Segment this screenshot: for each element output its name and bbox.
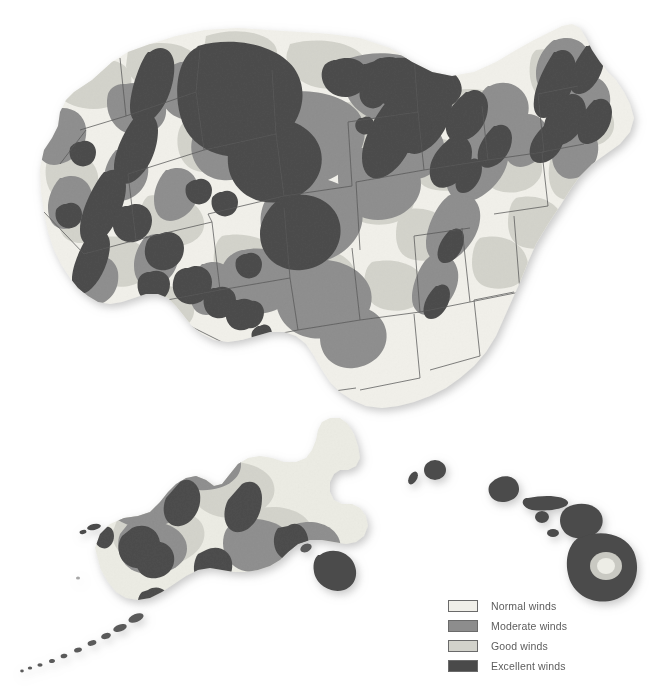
map-canvas xyxy=(0,0,662,700)
legend-label-good: Good winds xyxy=(491,640,548,652)
legend-item-excellent: Excellent winds xyxy=(448,656,648,676)
legend-label-excellent: Excellent winds xyxy=(491,660,566,672)
conus-relief-texture xyxy=(30,20,650,420)
hawaii-islands xyxy=(406,460,637,602)
alaska-inset xyxy=(20,410,400,672)
hawaii-inset xyxy=(406,460,637,602)
aleutian-chain xyxy=(20,611,145,672)
legend-swatch-moderate xyxy=(448,620,478,632)
legend-item-normal: Normal winds xyxy=(448,596,648,616)
wind-class-legend: Normal winds Moderate winds Good winds E… xyxy=(448,596,648,676)
legend-label-normal: Normal winds xyxy=(491,600,556,612)
conus-inset xyxy=(30,20,650,420)
legend-item-good: Good winds xyxy=(448,636,648,656)
alaska-relief-texture xyxy=(60,410,400,670)
legend-label-moderate: Moderate winds xyxy=(491,620,567,632)
legend-swatch-excellent xyxy=(448,660,478,672)
legend-swatch-good xyxy=(448,640,478,652)
legend-item-moderate: Moderate winds xyxy=(448,616,648,636)
alaska-panhandle xyxy=(299,542,356,591)
wind-resource-map-figure: Normal winds Moderate winds Good winds E… xyxy=(0,0,662,700)
legend-swatch-normal xyxy=(448,600,478,612)
